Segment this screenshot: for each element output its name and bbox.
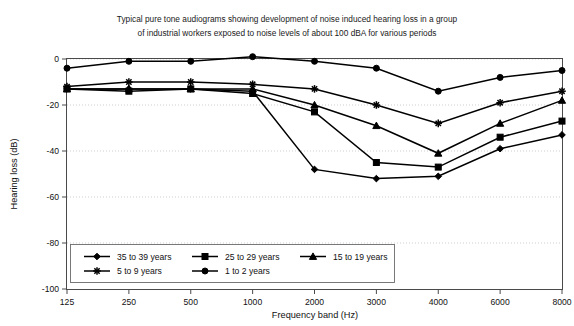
data-point-marker-circle (559, 68, 565, 74)
y-tick-label: -40 (47, 146, 60, 156)
legend-label: 1 to 2 years (225, 266, 270, 276)
legend-box (71, 245, 395, 283)
data-point-marker-star (125, 78, 133, 86)
x-tick-label: 500 (184, 297, 199, 307)
data-point-marker-star (93, 267, 101, 275)
data-point-marker-square (373, 160, 379, 166)
data-point-marker-circle (202, 268, 208, 274)
chart-legend: 35 to 39 years25 to 29 years15 to 19 yea… (71, 245, 395, 283)
data-point-marker-star (249, 81, 257, 89)
chart-title-line-2: of industrial workers exposed to noise l… (138, 28, 437, 38)
x-tick-label: 2000 (305, 297, 324, 307)
data-point-marker-square (497, 134, 503, 140)
data-point-marker-circle (64, 65, 70, 71)
data-point-marker-star (558, 87, 566, 95)
x-tick-label: 3000 (367, 297, 386, 307)
legend-item[interactable]: 35 to 39 years (84, 252, 171, 262)
legend-label: 5 to 9 years (117, 266, 162, 276)
data-point-marker-circle (373, 65, 379, 71)
y-tick-label: -80 (47, 238, 60, 248)
data-point-marker-star (63, 83, 71, 91)
x-tick-label: 6000 (491, 297, 510, 307)
y-tick-label: 0 (54, 54, 59, 64)
x-tick-label: 125 (60, 297, 75, 307)
data-point-marker-star (187, 78, 195, 86)
data-point-marker-star (434, 120, 442, 128)
data-point-marker-circle (435, 88, 441, 94)
x-axis-title: Frequency band (Hz) (272, 310, 358, 320)
data-point-marker-square (312, 109, 318, 115)
data-point-marker-circle (126, 58, 132, 64)
legend-label: 15 to 19 years (333, 252, 387, 262)
x-tick-label: 4000 (429, 297, 448, 307)
chart-title-line-1: Typical pure tone audiograms showing dev… (117, 14, 458, 24)
data-point-marker-square (559, 118, 565, 124)
y-tick-label: -100 (42, 284, 59, 294)
chart-canvas: Typical pure tone audiograms showing dev… (0, 0, 574, 326)
legend-label: 25 to 29 years (225, 252, 279, 262)
data-point-marker-star (496, 99, 504, 107)
data-point-marker-circle (188, 58, 194, 64)
data-point-marker-star (311, 85, 319, 93)
x-tick-label: 250 (122, 297, 137, 307)
y-tick-label: -20 (47, 100, 60, 110)
data-point-marker-circle (497, 74, 503, 80)
audiogram-chart: Typical pure tone audiograms showing dev… (0, 0, 574, 326)
data-point-marker-circle (250, 54, 256, 60)
legend-label: 35 to 39 years (117, 252, 171, 262)
data-point-marker-square (435, 164, 441, 170)
y-tick-label: -60 (47, 192, 60, 202)
data-point-marker-circle (312, 58, 318, 64)
y-axis-title: Hearing loss (dB) (9, 139, 19, 210)
x-tick-label: 8000 (552, 297, 571, 307)
x-tick-label: 1000 (243, 297, 262, 307)
data-point-marker-square (202, 254, 208, 260)
data-point-marker-star (373, 101, 381, 109)
